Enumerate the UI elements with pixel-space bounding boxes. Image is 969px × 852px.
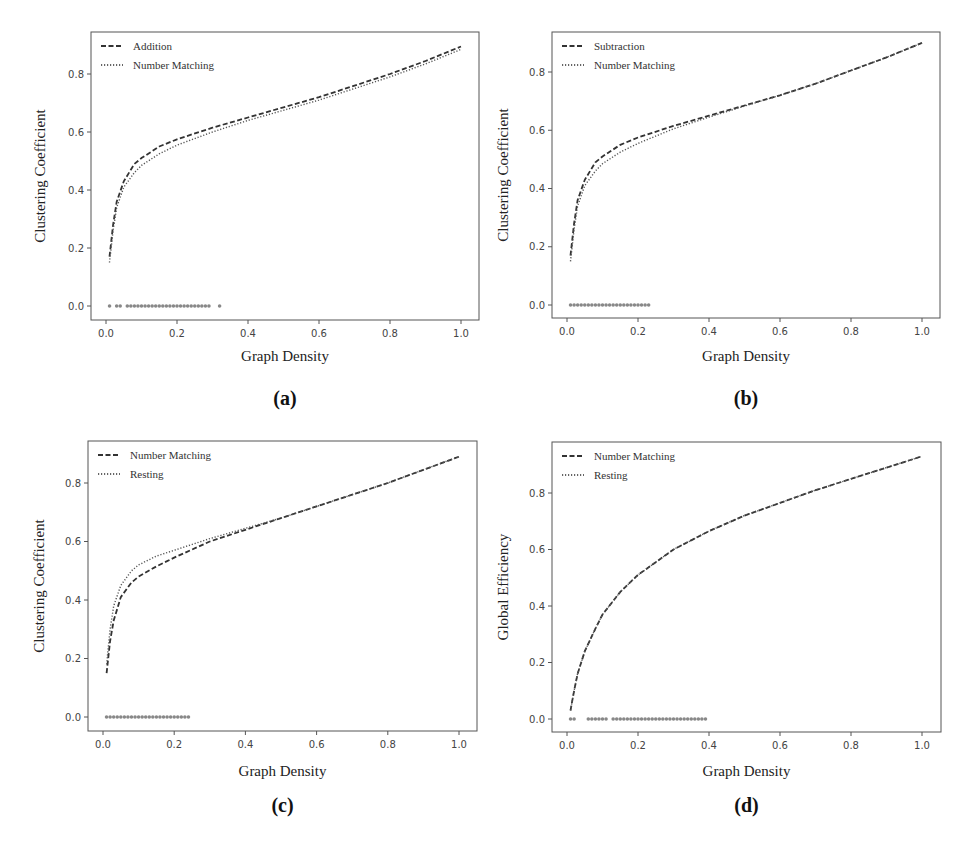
significance-marker <box>218 304 222 308</box>
significance-marker <box>604 717 608 721</box>
x-tick-label: 0.8 <box>380 739 396 750</box>
y-tick-label: 0.8 <box>68 69 84 80</box>
x-tick-label: 0.8 <box>843 326 859 337</box>
x-tick-label: 0.2 <box>166 739 182 750</box>
series-line-resting <box>571 456 923 710</box>
significance-marker <box>629 717 633 721</box>
significance-marker <box>640 717 644 721</box>
significance-marker <box>183 715 187 719</box>
y-tick-label: 0.4 <box>529 183 545 194</box>
significance-marker <box>162 715 166 719</box>
legend-label: Subtraction <box>594 40 645 52</box>
significance-marker <box>118 304 122 308</box>
significance-marker <box>176 715 180 719</box>
significance-marker <box>587 717 591 721</box>
chart-panel-d: 0.00.20.40.60.81.00.00.20.40.60.8Number … <box>495 442 941 817</box>
series-line-number-matching <box>107 457 459 673</box>
x-tick-label: 0.0 <box>98 328 114 339</box>
significance-marker <box>115 715 119 719</box>
y-tick-label: 0.6 <box>529 544 545 555</box>
significance-marker <box>686 717 690 721</box>
significance-marker <box>126 304 130 308</box>
significance-marker <box>640 303 644 307</box>
significance-marker <box>108 304 112 308</box>
significance-marker <box>165 304 169 308</box>
significance-marker <box>169 715 173 719</box>
significance-marker <box>661 717 665 721</box>
significance-marker <box>597 303 601 307</box>
significance-marker <box>633 303 637 307</box>
significance-marker <box>700 717 704 721</box>
y-tick-label: 0.0 <box>529 714 545 725</box>
significance-marker <box>140 304 144 308</box>
legend-label: Addition <box>133 40 173 52</box>
y-axis-label: Clustering Coefficient <box>32 108 48 242</box>
significance-marker <box>622 303 626 307</box>
plot-frame <box>91 32 479 320</box>
significance-marker <box>618 303 622 307</box>
y-tick-label: 0.8 <box>529 67 545 78</box>
panel-label: (c) <box>271 794 293 817</box>
significance-marker <box>158 715 162 719</box>
significance-marker <box>180 715 184 719</box>
legend-label: Number Matching <box>130 449 211 461</box>
x-tick-label: 0.2 <box>630 740 646 751</box>
x-tick-label: 0.8 <box>382 328 398 339</box>
chart-panel-a: 0.00.20.40.60.81.00.00.20.40.60.8Additio… <box>32 32 479 410</box>
significance-marker <box>133 715 137 719</box>
x-tick-label: 0.6 <box>309 739 325 750</box>
x-tick-label: 1.0 <box>914 326 930 337</box>
significance-marker <box>108 715 112 719</box>
significance-marker <box>119 715 123 719</box>
significance-marker <box>689 717 693 721</box>
series-line-number-matching <box>110 49 462 262</box>
significance-marker <box>165 715 169 719</box>
significance-marker <box>629 303 633 307</box>
x-tick-label: 1.0 <box>451 739 467 750</box>
significance-marker <box>675 717 679 721</box>
significance-marker <box>622 717 626 721</box>
significance-marker <box>140 715 144 719</box>
significance-marker <box>576 303 580 307</box>
panel-label: (b) <box>734 387 758 410</box>
x-tick-label: 0.4 <box>701 740 717 751</box>
significance-marker <box>626 303 630 307</box>
significance-marker <box>590 717 594 721</box>
significance-marker <box>175 304 179 308</box>
significance-marker <box>186 304 190 308</box>
x-tick-label: 0.4 <box>237 739 253 750</box>
series-line-number-matching <box>571 456 923 710</box>
significance-marker <box>682 717 686 721</box>
significance-marker <box>615 303 619 307</box>
x-tick-label: 0.6 <box>311 328 327 339</box>
significance-marker <box>597 717 601 721</box>
x-axis-label: Graph Density <box>239 763 327 779</box>
significance-marker <box>136 304 140 308</box>
significance-marker <box>679 717 683 721</box>
significance-marker <box>172 304 176 308</box>
significance-marker <box>601 303 605 307</box>
x-axis-label: Graph Density <box>702 348 790 364</box>
x-tick-label: 1.0 <box>914 740 930 751</box>
plot-frame <box>88 441 477 731</box>
significance-marker <box>604 303 608 307</box>
significance-marker <box>155 715 159 719</box>
significance-marker <box>611 303 615 307</box>
significance-marker <box>179 304 183 308</box>
significance-marker <box>189 304 193 308</box>
significance-marker <box>126 715 130 719</box>
y-tick-label: 0.2 <box>65 653 81 664</box>
y-axis-label: Clustering Coefficient <box>31 518 47 652</box>
significance-marker <box>572 303 576 307</box>
significance-marker <box>658 717 662 721</box>
significance-marker <box>193 304 197 308</box>
significance-marker <box>130 715 134 719</box>
significance-marker <box>572 717 576 721</box>
x-tick-label: 0.8 <box>843 740 859 751</box>
significance-marker <box>207 304 211 308</box>
significance-marker <box>144 715 148 719</box>
significance-marker <box>615 717 619 721</box>
significance-marker <box>594 717 598 721</box>
x-tick-label: 0.6 <box>772 740 788 751</box>
significance-marker <box>647 303 651 307</box>
